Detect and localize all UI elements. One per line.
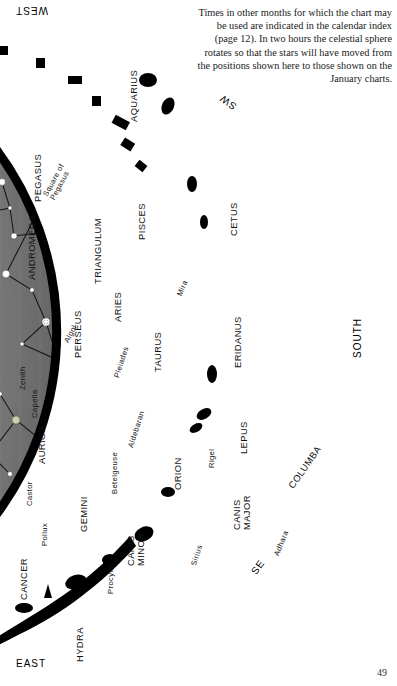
star-rigel [58,476,66,484]
label-rigel: Rigel [207,449,216,468]
label-orion: ORION [172,457,183,490]
label-aquarius: AQUARIUS [128,70,139,122]
label-capella: Capella [30,389,39,418]
direction-south: SOUTH [352,318,363,358]
label-andromeda: ANDROMEDA [26,215,37,280]
label-pisces: PISCES [136,203,147,240]
label-canis-major: CANIS MAJOR [232,495,251,530]
label-cetus: CETUS [228,202,239,236]
direction-east: EAST [16,658,46,669]
label-triangulum: TRIANGULUM [92,218,103,284]
star-chart-page: Times in other months for which the char… [0,0,397,686]
star-aldebaran [12,416,20,424]
sky-chart: PEGASUS AQUARIUS PISCES CETUS ANDROMEDA … [0,22,320,642]
label-castor: Castor [25,481,34,506]
label-pegasus: PEGASUS [32,154,43,202]
label-eridanus: ERIDANUS [232,316,243,368]
label-taurus: TAURUS [152,332,163,372]
label-lepus: LEPUS [238,421,249,454]
label-canis-minor: CANIS MINOR [126,533,145,566]
label-canis-major-line2: MAJOR [241,495,252,530]
star-procyon [2,564,10,572]
label-aries: ARIES [112,292,123,322]
label-auriga: AURIGA [36,426,47,464]
label-gemini: GEMINI [78,496,89,532]
page-number: 49 [377,667,387,678]
label-betelgeuse: Betelgeuse [110,452,119,494]
label-cancer: CANCER [18,558,29,600]
label-procyon: Procyon [106,563,115,594]
label-zenith: Zenith [18,366,27,390]
label-canis-minor-line2: MINOR [135,533,146,566]
direction-west: WEST [15,5,48,16]
label-pollux: Pollux [40,523,49,546]
label-hydra: HYDRA [74,627,85,662]
